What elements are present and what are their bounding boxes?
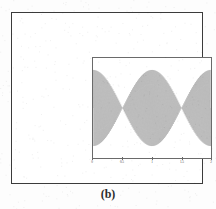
figure-outer-frame: 1 0 -1 0 0.5 1 1.5 2 <box>11 12 203 184</box>
x-tick-label-2: 1 <box>145 161 159 164</box>
x-tick-label-3: 1.5 <box>175 161 189 164</box>
x-tick-label-1: 0.5 <box>115 161 129 164</box>
plot-block: 1 0 -1 0 0.5 1 1.5 2 <box>78 55 214 169</box>
x-tick-label-4: 2 <box>204 161 216 164</box>
signal-trace <box>93 58 211 158</box>
figure-caption: (b) <box>0 187 216 202</box>
x-tick-label-0: 0 <box>85 161 99 164</box>
figure-root: 1 0 -1 0 0.5 1 1.5 2 <box>0 0 216 209</box>
axes-box <box>92 57 212 159</box>
